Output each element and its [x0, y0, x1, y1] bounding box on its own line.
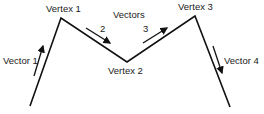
- vertex-1-label: Vertex 1: [46, 4, 81, 14]
- vector-1-label: Vector 1: [3, 56, 38, 66]
- vertex-3-label: Vertex 3: [178, 2, 213, 12]
- vectors-title: Vectors: [113, 10, 145, 20]
- vector-3-label: 3: [143, 24, 148, 34]
- vector-2-label: 2: [100, 24, 105, 34]
- polyline-path: [30, 16, 230, 107]
- vertex-2-label: Vertex 2: [108, 66, 143, 76]
- vector-2-arrow: [86, 28, 110, 43]
- vector-4-label: Vector 4: [224, 56, 259, 66]
- vector-4-arrow: [213, 46, 222, 73]
